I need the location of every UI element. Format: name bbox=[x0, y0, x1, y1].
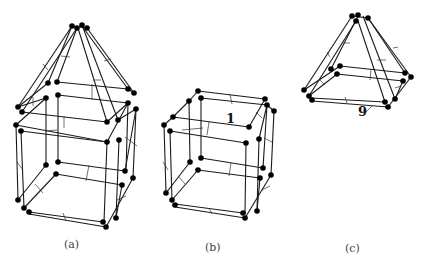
panel-a-caption: (a) bbox=[64, 238, 79, 251]
panel-b-annotation: 1 bbox=[226, 111, 235, 126]
diagram-canvas bbox=[0, 0, 429, 270]
panel-a-graph bbox=[13, 22, 139, 230]
panel-b-caption: (b) bbox=[205, 241, 221, 254]
panel-c-annotation: 9 bbox=[358, 104, 367, 119]
panel-c-caption: (c) bbox=[345, 242, 360, 255]
panel-c-graph bbox=[301, 12, 414, 112]
panel-b-graph bbox=[161, 88, 277, 221]
